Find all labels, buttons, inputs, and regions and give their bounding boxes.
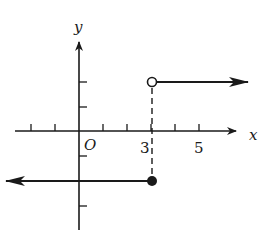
graph-canvas: x 3 5 O y: [0, 0, 270, 242]
x-tick-label-3: 3: [140, 139, 150, 157]
y-axis: y: [73, 18, 87, 230]
x-axis-ticks: [31, 124, 199, 131]
origin-label: O: [84, 136, 96, 154]
x-axis-label: x: [249, 126, 258, 144]
left-piece: [6, 176, 157, 186]
step-function-graph: x 3 5 O y: [0, 0, 270, 242]
x-axis: x 3 5 O: [15, 124, 258, 157]
x-tick-label-5: 5: [194, 139, 204, 157]
y-axis-label: y: [73, 18, 83, 36]
right-piece: [148, 78, 249, 87]
open-endpoint-circle: [148, 78, 157, 87]
closed-endpoint-dot: [147, 176, 157, 186]
